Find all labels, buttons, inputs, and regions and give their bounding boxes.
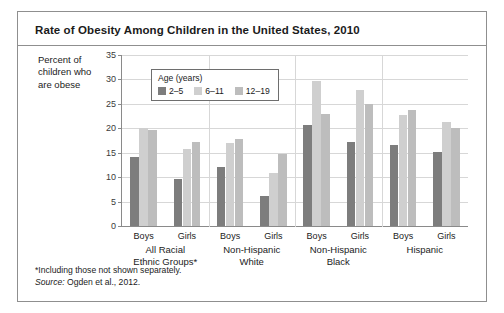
legend-item: 2–5 bbox=[158, 86, 183, 96]
bar bbox=[451, 128, 460, 226]
x-axis-subcategory-label: Boys bbox=[134, 231, 154, 241]
bar bbox=[269, 173, 278, 226]
x-axis-group-label-line: Non-Hispanic bbox=[223, 244, 280, 256]
y-axis-tick-label: 25 bbox=[106, 99, 116, 109]
footnotes: *Including those not shown separately. S… bbox=[35, 265, 182, 288]
title-divider bbox=[18, 45, 486, 46]
bar bbox=[356, 90, 365, 226]
bar bbox=[130, 157, 139, 226]
source-text: Source: Ogden et al., 2012. bbox=[35, 277, 182, 289]
y-axis-tick-label: 30 bbox=[106, 74, 116, 84]
y-axis-tick-label: 5 bbox=[111, 197, 116, 207]
x-axis-subcategory-label: Boys bbox=[393, 231, 413, 241]
bar bbox=[433, 152, 442, 226]
source-value: Ogden et al., 2012. bbox=[65, 277, 141, 287]
bar bbox=[139, 128, 148, 226]
x-axis-subcategory-label: Girls bbox=[437, 231, 456, 241]
bar bbox=[226, 143, 235, 226]
legend: Age (years) 2–56–1112–19 bbox=[151, 69, 279, 101]
x-axis-group-label: Non-HispanicWhite bbox=[223, 244, 280, 268]
bar bbox=[303, 125, 312, 226]
legend-item: 6–11 bbox=[194, 86, 223, 96]
figure-panel: Rate of Obesity Among Children in the Un… bbox=[17, 11, 487, 302]
legend-label: 2–5 bbox=[169, 86, 183, 96]
legend-swatch-icon bbox=[158, 87, 166, 95]
legend-label: 12–19 bbox=[246, 86, 270, 96]
x-axis-subcategory-label: Girls bbox=[264, 231, 283, 241]
legend-swatch-icon bbox=[235, 87, 243, 95]
group-separator bbox=[295, 55, 296, 227]
x-axis-subcategory-label: Boys bbox=[220, 231, 240, 241]
bar bbox=[312, 81, 321, 226]
x-axis-group-label: All RacialEthnic Groups* bbox=[133, 244, 197, 268]
y-axis-line bbox=[121, 55, 122, 227]
x-axis-group-label-line: Non-Hispanic bbox=[310, 244, 367, 256]
bar bbox=[408, 110, 417, 226]
bar bbox=[399, 115, 408, 226]
bar bbox=[442, 122, 451, 226]
legend-label: 6–11 bbox=[205, 86, 223, 96]
legend-item: 12–19 bbox=[235, 86, 270, 96]
chart-title: Rate of Obesity Among Children in the Un… bbox=[35, 24, 360, 36]
y-axis-tick-label: 35 bbox=[106, 50, 116, 60]
x-axis-group-label-line: Ethnic Groups* bbox=[133, 256, 197, 268]
legend-swatch-icon bbox=[194, 87, 202, 95]
bar bbox=[148, 130, 157, 226]
x-axis-group-label-line: Hispanic bbox=[407, 244, 443, 256]
x-axis-group-label: Hispanic bbox=[407, 244, 443, 256]
x-axis-group-label-line: White bbox=[223, 256, 280, 268]
bar bbox=[390, 145, 399, 226]
bar bbox=[278, 154, 287, 226]
legend-title: Age (years) bbox=[158, 73, 270, 83]
y-axis-tick-label: 20 bbox=[106, 123, 116, 133]
x-axis-subcategory-label: Boys bbox=[307, 231, 327, 241]
bar bbox=[174, 179, 183, 226]
bar bbox=[321, 114, 330, 226]
bar bbox=[365, 104, 374, 226]
y-axis-tick-label: 0 bbox=[111, 221, 116, 231]
x-axis-subcategory-label: Girls bbox=[351, 231, 370, 241]
bar bbox=[183, 149, 192, 226]
x-axis-group-label-line: Black bbox=[310, 256, 367, 268]
y-axis-tick-label: 15 bbox=[106, 148, 116, 158]
bar bbox=[217, 167, 226, 226]
source-label: Source: bbox=[35, 277, 65, 287]
x-axis-group-label-line: All Racial bbox=[133, 244, 197, 256]
group-separator bbox=[382, 55, 383, 227]
legend-items: 2–56–1112–19 bbox=[158, 86, 270, 96]
y-axis-tick-label: 10 bbox=[106, 172, 116, 182]
bar bbox=[347, 142, 356, 226]
bar bbox=[260, 196, 269, 226]
bar bbox=[235, 139, 244, 226]
x-axis-subcategory-label: Girls bbox=[178, 231, 197, 241]
bar bbox=[192, 142, 201, 226]
y-axis-caption: Percent of children who are obese bbox=[38, 54, 104, 91]
x-axis-group-label: Non-HispanicBlack bbox=[310, 244, 367, 268]
